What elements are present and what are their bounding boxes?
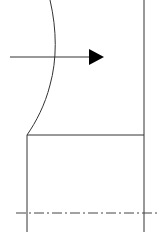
curved-surface-line [27,0,55,135]
arrow-head-icon [89,49,104,65]
diagram-canvas [0,0,165,239]
